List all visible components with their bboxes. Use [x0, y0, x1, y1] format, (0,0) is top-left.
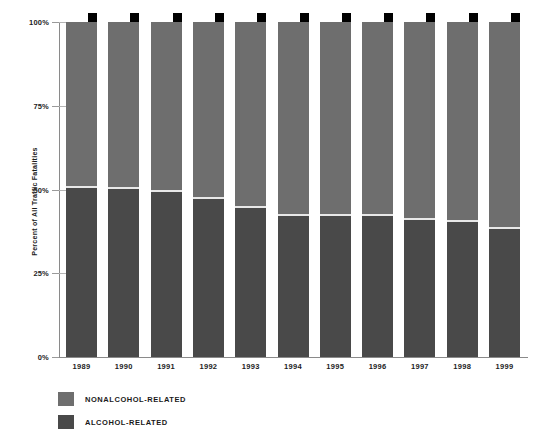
- bar-segment-divider: [108, 187, 139, 189]
- bar-segment-divider: [193, 197, 224, 199]
- legend-swatch-alcohol: [58, 415, 74, 429]
- bar-group: [362, 22, 393, 357]
- bar-front: [235, 22, 266, 357]
- legend-swatch-nonalcohol: [58, 392, 74, 406]
- bar-segment-nonalcohol: [193, 22, 224, 198]
- bar-segment-divider: [362, 214, 393, 216]
- x-tick-label: 1995: [313, 362, 357, 371]
- y-tick-label: 50%: [33, 185, 49, 194]
- bar-segment-nonalcohol: [362, 22, 393, 215]
- y-tick-mark: [52, 357, 59, 358]
- bar-segment-alcohol: [447, 221, 478, 357]
- bar-front: [447, 22, 478, 357]
- bar-segment-alcohol: [362, 215, 393, 357]
- bar-group: [278, 22, 309, 357]
- bar-front: [404, 22, 435, 357]
- chart-legend: NONALCOHOL-RELATED ALCOHOL-RELATED: [58, 392, 186, 437]
- legend-label-nonalcohol: NONALCOHOL-RELATED: [85, 395, 186, 404]
- bar-group: [151, 22, 182, 357]
- bar-segment-alcohol: [66, 187, 97, 357]
- bar-segment-alcohol: [235, 207, 266, 357]
- legend-item-alcohol: ALCOHOL-RELATED: [58, 415, 186, 429]
- x-tick-label: 1990: [102, 362, 146, 371]
- chart-container: Percent of All Traffic Fatalities 0%25%5…: [0, 0, 546, 437]
- bar-segment-divider: [66, 186, 97, 188]
- x-tick-label: 1997: [398, 362, 442, 371]
- y-tick-label: 75%: [33, 101, 49, 110]
- bar-group: [235, 22, 266, 357]
- bar-segment-divider: [404, 218, 435, 220]
- bar-segment-nonalcohol: [108, 22, 139, 188]
- bar-segment-nonalcohol: [489, 22, 520, 228]
- bar-group: [66, 22, 97, 357]
- bar-segment-alcohol: [320, 215, 351, 357]
- x-tick-label: 1993: [229, 362, 273, 371]
- bar-front: [193, 22, 224, 357]
- bar-segment-nonalcohol: [66, 22, 97, 187]
- bar-segment-nonalcohol: [447, 22, 478, 221]
- y-tick-mark: [52, 106, 59, 107]
- bar-segment-alcohol: [404, 219, 435, 357]
- legend-label-alcohol: ALCOHOL-RELATED: [85, 418, 168, 427]
- y-axis-title: Percent of All Traffic Fatalities: [31, 122, 38, 282]
- bar-segment-alcohol: [489, 228, 520, 357]
- bar-front: [489, 22, 520, 357]
- y-tick-label: 25%: [33, 269, 49, 278]
- bar-segment-divider: [320, 214, 351, 216]
- y-tick-mark: [52, 22, 59, 23]
- bar-segment-nonalcohol: [404, 22, 435, 219]
- bar-segment-divider: [278, 214, 309, 216]
- bar-group: [320, 22, 351, 357]
- y-tick-mark: [52, 273, 59, 274]
- bar-segment-nonalcohol: [278, 22, 309, 215]
- bar-front: [66, 22, 97, 357]
- bar-segment-divider: [151, 190, 182, 192]
- x-tick-label: 1999: [483, 362, 527, 371]
- bar-segment-divider: [489, 227, 520, 229]
- bar-segment-alcohol: [108, 189, 139, 358]
- y-tick-label: 100%: [29, 18, 49, 27]
- x-tick-label: 1994: [271, 362, 315, 371]
- bar-segment-divider: [235, 206, 266, 208]
- bar-segment-alcohol: [193, 198, 224, 357]
- bar-segment-nonalcohol: [320, 22, 351, 215]
- x-tick-label: 1992: [186, 362, 230, 371]
- x-tick-label: 1989: [60, 362, 104, 371]
- plot-area: 0%25%50%75%100% 198919901991199219931994…: [59, 22, 528, 357]
- bar-group: [489, 22, 520, 357]
- bar-front: [320, 22, 351, 357]
- bar-group: [193, 22, 224, 357]
- bar-front: [362, 22, 393, 357]
- y-tick-label: 0%: [38, 353, 49, 362]
- bar-group: [404, 22, 435, 357]
- x-tick-label: 1996: [356, 362, 400, 371]
- bar-segment-alcohol: [278, 215, 309, 357]
- bar-segment-nonalcohol: [235, 22, 266, 207]
- x-axis-line: [59, 357, 528, 358]
- x-tick-label: 1991: [144, 362, 188, 371]
- bar-segment-alcohol: [151, 191, 182, 357]
- bar-group: [447, 22, 478, 357]
- bar-segment-divider: [447, 220, 478, 222]
- bar-front: [278, 22, 309, 357]
- bar-group: [108, 22, 139, 357]
- bar-segment-nonalcohol: [151, 22, 182, 191]
- bar-front: [108, 22, 139, 357]
- x-tick-label: 1998: [440, 362, 484, 371]
- legend-item-nonalcohol: NONALCOHOL-RELATED: [58, 392, 186, 406]
- bar-front: [151, 22, 182, 357]
- y-tick-mark: [52, 190, 59, 191]
